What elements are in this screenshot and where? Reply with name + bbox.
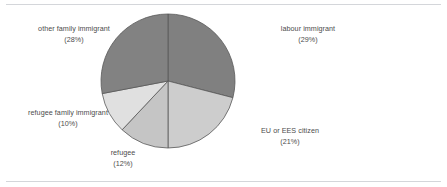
pie-label-labour-immigrant: labour immigrant (29%): [248, 24, 368, 45]
pie-label-other-family-immigrant-name: other family immigrant: [8, 24, 140, 35]
pie-label-refugee-percent: (12%): [88, 159, 158, 170]
figure-frame: other family immigrant (28%) labour immi…: [0, 0, 447, 187]
pie-label-refugee: refugee (12%): [88, 148, 158, 169]
pie-label-other-family-immigrant-percent: (28%): [8, 35, 140, 46]
pie-label-refugee-family-immigrant: refugee family immigrant (10%): [2, 108, 134, 129]
pie-label-eu-ees-citizen-percent: (21%): [232, 137, 348, 148]
pie-label-eu-ees-citizen: EU or EES citizen (21%): [232, 126, 348, 147]
pie-label-refugee-family-immigrant-name: refugee family immigrant: [2, 108, 134, 119]
pie-label-eu-ees-citizen-name: EU or EES citizen: [232, 126, 348, 137]
pie-chart: other family immigrant (28%) labour immi…: [0, 0, 447, 187]
pie-label-other-family-immigrant: other family immigrant (28%): [8, 24, 140, 45]
pie-label-labour-immigrant-name: labour immigrant: [248, 24, 368, 35]
divider-bottom: [6, 181, 441, 182]
pie-label-refugee-family-immigrant-percent: (10%): [2, 119, 134, 130]
pie-label-refugee-name: refugee: [88, 148, 158, 159]
pie-label-labour-immigrant-percent: (29%): [248, 35, 368, 46]
